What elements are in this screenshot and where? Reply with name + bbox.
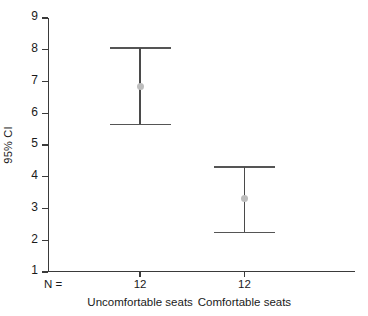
y-tick-label-2: 2 <box>16 232 38 246</box>
y-tick-7: 7 <box>42 81 48 82</box>
plot-area: 9 8 7 6 5 4 3 2 1 <box>48 18 355 272</box>
errorbar-lower-cap <box>110 124 171 126</box>
y-tick-label-7: 7 <box>16 73 38 87</box>
n-equals-label: N = <box>44 278 62 290</box>
x-axis-line <box>48 271 355 272</box>
y-tick-label-6: 6 <box>16 105 38 119</box>
y-tick-label-8: 8 <box>16 41 38 55</box>
y-tick-label-5: 5 <box>16 136 38 150</box>
category-label-comfortable-seats: Comfortable seats <box>174 296 314 308</box>
errorbar-comfortable-seats[interactable] <box>204 18 284 272</box>
errorbar-mean-marker <box>241 195 248 202</box>
errorbar-lower-cap <box>214 232 275 234</box>
n-value-uncomfortable-seats: 12 <box>110 278 170 290</box>
errorbar-mean-marker <box>137 83 144 90</box>
y-tick-9: 9 <box>42 17 48 18</box>
y-tick-6: 6 <box>42 113 48 114</box>
x-tick-uncomfortable-seats <box>139 272 140 277</box>
y-axis-line <box>48 18 49 272</box>
y-tick-label-3: 3 <box>16 200 38 214</box>
y-tick-5: 5 <box>42 144 48 145</box>
n-value-comfortable-seats: 12 <box>214 278 274 290</box>
error-bar-chart: 95% CI 9 8 7 6 5 4 3 2 1 <box>0 0 368 316</box>
x-tick-comfortable-seats <box>244 272 245 277</box>
y-tick-label-4: 4 <box>16 168 38 182</box>
y-tick-4: 4 <box>42 176 48 177</box>
y-tick-2: 2 <box>42 240 48 241</box>
errorbar-uncomfortable-seats[interactable] <box>100 18 180 272</box>
y-tick-label-1: 1 <box>16 263 38 277</box>
y-tick-label-9: 9 <box>16 9 38 23</box>
y-tick-1: 1 <box>42 271 48 272</box>
y-axis-title: 95% CI <box>2 100 14 190</box>
y-tick-3: 3 <box>42 208 48 209</box>
y-tick-8: 8 <box>42 49 48 50</box>
